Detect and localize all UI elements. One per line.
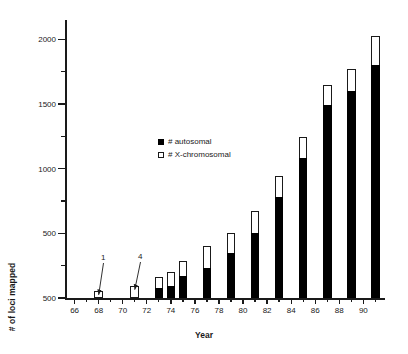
legend-item-x-chromosomal: # X-chromosomal <box>158 149 231 162</box>
bar-segment-autosomal <box>323 105 332 298</box>
y-tick-minor <box>61 200 66 201</box>
legend-item-autosomal: # autosomal <box>158 136 231 149</box>
x-tick-label: 66 <box>70 306 79 315</box>
y-axis-title-wrapper: # of loci mapped <box>8 250 9 251</box>
plot-area: 500500100015002000 666870727476788082848… <box>65 20 385 298</box>
y-tick-major <box>58 39 65 40</box>
x-tick-label: 86 <box>311 306 320 315</box>
bar-segment-autosomal <box>179 276 188 298</box>
x-axis-line <box>65 298 385 300</box>
x-tick-label: 80 <box>239 306 248 315</box>
chart-figure: # of loci mapped 500500100015002000 6668… <box>0 0 408 354</box>
bar-segment-autosomal <box>155 288 164 298</box>
y-tick-minor <box>61 136 66 137</box>
y-tick-major <box>58 233 65 234</box>
x-tick-minor <box>375 298 376 302</box>
x-tick-minor <box>86 298 87 302</box>
x-tick-minor <box>254 298 255 302</box>
bar-segment-autosomal <box>371 65 380 298</box>
x-tick-label: 78 <box>215 306 224 315</box>
y-tick-label: 500 <box>43 294 56 303</box>
x-tick-minor <box>158 298 159 302</box>
x-tick-label: 68 <box>94 306 103 315</box>
bar <box>251 211 260 298</box>
x-tick-major <box>170 298 171 304</box>
x-tick-minor <box>134 298 135 302</box>
bar-segment-autosomal <box>251 233 260 298</box>
x-tick-major <box>98 298 99 304</box>
x-tick-minor <box>351 298 352 302</box>
x-tick-label: 76 <box>190 306 199 315</box>
x-tick-label: 88 <box>335 306 344 315</box>
bar-segment-autosomal <box>275 197 284 299</box>
x-tick-minor <box>230 298 231 302</box>
bar-segment-autosomal <box>299 158 308 298</box>
x-tick-major <box>122 298 123 304</box>
chart-legend: # autosomal # X-chromosomal <box>158 136 231 161</box>
x-tick-minor <box>303 298 304 302</box>
y-tick-label: 1000 <box>38 164 56 173</box>
x-axis-title: Year <box>0 330 408 340</box>
bar-segment-autosomal <box>227 253 236 298</box>
x-tick-major <box>242 298 243 304</box>
x-tick-label: 90 <box>359 306 368 315</box>
x-tick-minor <box>182 298 183 302</box>
bar-segment-x-chromosomal <box>130 286 139 298</box>
hollow-square-icon <box>158 152 164 158</box>
bar <box>155 277 164 298</box>
y-tick-major <box>58 168 65 169</box>
annotation-label: 4 <box>138 252 142 261</box>
bar <box>167 272 176 299</box>
bar <box>299 137 308 298</box>
x-tick-minor <box>206 298 207 302</box>
filled-square-icon <box>158 139 164 145</box>
bar <box>203 246 212 298</box>
x-tick-label: 84 <box>287 306 296 315</box>
x-tick-major <box>146 298 147 304</box>
legend-label-x-chromosomal: # X-chromosomal <box>168 149 231 162</box>
bar-segment-autosomal <box>167 286 176 298</box>
x-tick-major <box>266 298 267 304</box>
x-tick-major <box>291 298 292 304</box>
legend-label-autosomal: # autosomal <box>168 136 212 149</box>
y-tick-label: 1500 <box>38 100 56 109</box>
y-tick-major <box>58 103 65 104</box>
bar-segment-x-chromosomal <box>94 291 103 298</box>
bar-segment-autosomal <box>203 268 212 298</box>
y-axis-line <box>65 20 67 298</box>
x-tick-minor <box>327 298 328 302</box>
x-tick-major <box>218 298 219 304</box>
y-tick-major <box>58 297 65 298</box>
bar-segment-autosomal <box>347 91 356 298</box>
x-tick-major <box>339 298 340 304</box>
annotation-label: 1 <box>101 253 105 262</box>
y-tick-label: 2000 <box>38 35 56 44</box>
bar <box>130 286 139 298</box>
bar <box>275 176 284 298</box>
bar <box>371 36 380 298</box>
bar <box>179 261 188 298</box>
x-tick-label: 70 <box>118 306 127 315</box>
bar <box>347 69 356 299</box>
x-tick-label: 72 <box>142 306 151 315</box>
y-tick-minor <box>61 71 66 72</box>
y-tick-minor <box>61 265 66 266</box>
x-tick-major <box>363 298 364 304</box>
bar <box>227 233 236 298</box>
x-tick-minor <box>110 298 111 302</box>
x-tick-label: 82 <box>263 306 272 315</box>
x-tick-major <box>315 298 316 304</box>
bar <box>94 291 103 298</box>
bar <box>323 85 332 298</box>
x-tick-major <box>194 298 195 304</box>
x-tick-label: 74 <box>166 306 175 315</box>
x-tick-minor <box>278 298 279 302</box>
y-tick-label: 500 <box>43 229 56 238</box>
x-tick-major <box>74 298 75 304</box>
